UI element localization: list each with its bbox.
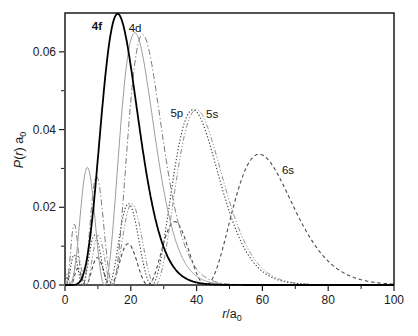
axis-title-part: ) a <box>12 137 26 152</box>
x-tick-label: 80 <box>322 293 336 307</box>
curve-5s <box>65 110 394 285</box>
x-axis-title: r/a0 <box>222 307 242 324</box>
x-tick-label: 60 <box>256 293 270 307</box>
x-tick-label: 0 <box>62 293 69 307</box>
x-tick-label: 40 <box>190 293 204 307</box>
curve-4f <box>65 14 394 285</box>
y-tick-label: 0.06 <box>33 45 57 59</box>
curve-label-4f: 4f <box>92 20 102 32</box>
curve-5p <box>65 110 394 285</box>
x-tick-label: 20 <box>124 293 138 307</box>
curve-label-5s: 5s <box>206 108 218 120</box>
curve-label-6s: 6s <box>282 164 294 176</box>
y-axis-title: P(r) a0 <box>12 132 29 168</box>
axis-title-part: 0 <box>18 132 28 137</box>
plot-frame <box>65 13 394 285</box>
curve-unlabeled <box>65 35 394 285</box>
axis-title-part: ( <box>12 156 26 160</box>
axis-title-part: P <box>12 160 26 168</box>
curve-4d <box>65 33 394 285</box>
radial-distribution-figure: 0204060801000.000.020.040.064f4d5p5s6s P… <box>0 0 418 336</box>
curve-6s <box>65 154 394 285</box>
axis-title-part: r <box>12 151 26 155</box>
axis-title-part: 0 <box>237 313 242 323</box>
axis-title-part: /a <box>226 307 236 321</box>
plot-canvas: 0204060801000.000.020.040.064f4d5p5s6s <box>0 0 418 336</box>
y-tick-label: 0.00 <box>33 278 57 292</box>
curve-label-4d: 4d <box>129 22 142 34</box>
y-tick-label: 0.02 <box>33 200 57 214</box>
y-tick-label: 0.04 <box>33 123 57 137</box>
curve-label-5p: 5p <box>170 107 183 119</box>
x-tick-label: 100 <box>384 293 404 307</box>
